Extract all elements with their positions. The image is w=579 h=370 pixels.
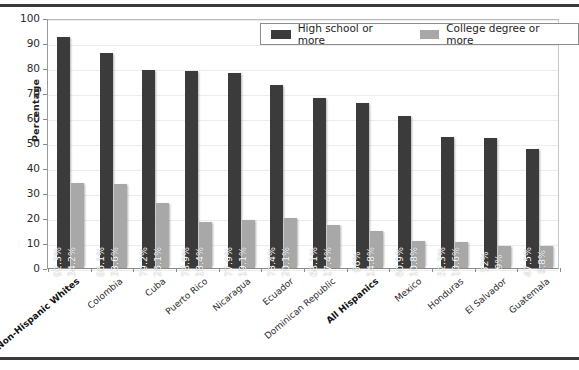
bar-college[interactable]: 8.8% [540,246,553,268]
bar-series-container: 92.3%34.2%86.1%33.6%79.2%26.1%78.9%18.4%… [48,20,558,268]
bar-high-school[interactable]: 66% [356,103,369,268]
y-tick-label-80: 80 [8,62,40,74]
bar-group: 77.9%19.1% [228,73,255,268]
y-tick-label-70: 70 [8,87,40,99]
y-tick-mark-0 [43,269,47,270]
x-axis-label: Dominican Republic [263,276,338,341]
x-tick-mark [560,268,561,272]
x-axis-label: El Salvador [463,276,508,316]
x-axis-label: Guatemala [507,276,551,316]
bar-college[interactable]: 20.1% [284,218,297,268]
y-tick-label-10: 10 [8,237,40,249]
x-axis-labels: Non-Hispanic WhitesColombiaCubaPuerto Ri… [47,272,559,357]
bar-value-label: 52% [479,251,490,272]
x-axis-label: Non-Hispanic Whites [0,276,82,351]
bar-group: 92.3%34.2% [57,37,84,268]
y-tick-label-50: 50 [8,137,40,149]
bar-high-school[interactable]: 79.2% [142,70,155,268]
bar-college[interactable]: 10.6% [455,242,468,269]
y-tick-label-20: 20 [8,212,40,224]
bar-value-label: 66% [351,251,362,272]
bar-group: 66%14.8% [356,103,383,268]
top-rule [0,4,579,7]
legend-swatch-high-school [271,30,291,39]
chart-legend: High school or more College degree or mo… [260,23,579,45]
x-axis-label: Puerto Rico [164,276,210,317]
bar-high-school[interactable]: 73.4% [270,85,283,269]
y-tick-label-30: 30 [8,187,40,199]
legend-label-college: College degree or more [446,22,568,46]
x-axis-label: Colombia [86,276,125,311]
bar-college[interactable]: 26.1% [156,203,169,268]
y-tick-label-0: 0 [8,262,40,274]
bar-value-label: 9% [493,254,504,269]
y-tick-label-100: 100 [8,12,40,24]
bar-college[interactable]: 34.2% [71,183,84,269]
y-tick-label-60: 60 [8,112,40,124]
bar-high-school[interactable]: 78.9% [185,71,198,268]
plot-area: 92.3%34.2%86.1%33.6%79.2%26.1%78.9%18.4%… [47,19,559,269]
bar-group: 68.1%17.4% [313,98,340,268]
bar-group: 86.1%33.6% [100,53,127,268]
bar-group: 52.3%10.6% [441,137,468,268]
bar-college[interactable]: 17.4% [327,225,340,269]
x-axis-label: Mexico [393,276,424,304]
bar-group: 73.4%20.1% [270,85,297,269]
chart-figure: Percentage 1009080706050403020100 92.3%3… [0,0,579,370]
x-axis-label: Honduras [426,276,466,312]
bar-college[interactable]: 14.8% [370,231,383,268]
bar-high-school[interactable]: 68.1% [313,98,326,268]
bar-high-school[interactable]: 86.1% [100,53,113,268]
bar-group: 79.2%26.1% [142,70,169,268]
legend-swatch-college [420,30,440,39]
bar-college[interactable]: 10.8% [412,241,425,268]
bar-group: 78.9%18.4% [185,71,212,268]
legend-item-high-school: High school or more [271,22,402,46]
y-tick-label-90: 90 [8,37,40,49]
bar-group: 52%9% [484,138,511,268]
legend-item-college: College degree or more [420,22,568,46]
bar-college[interactable]: 18.4% [199,222,212,268]
x-axis-label: Cuba [143,276,167,299]
bar-high-school[interactable]: 77.9% [228,73,241,268]
legend-label-high-school: High school or more [298,22,402,46]
bar-group: 60.9%10.8% [398,116,425,268]
bottom-rule [0,357,579,360]
bar-college[interactable]: 19.1% [242,220,255,268]
bar-high-school[interactable]: 92.3% [57,37,70,268]
bar-high-school[interactable]: 60.9% [398,116,411,268]
bar-high-school[interactable]: 52% [484,138,497,268]
y-tick-label-40: 40 [8,162,40,174]
bar-value-label: 8.8% [536,250,547,274]
bar-group: 47.5%8.8% [526,149,553,268]
bar-college[interactable]: 33.6% [114,184,127,268]
x-axis-label: Nicaragua [211,276,253,313]
x-axis-label: Ecuador [260,276,295,307]
bar-college[interactable]: 9% [498,246,511,269]
